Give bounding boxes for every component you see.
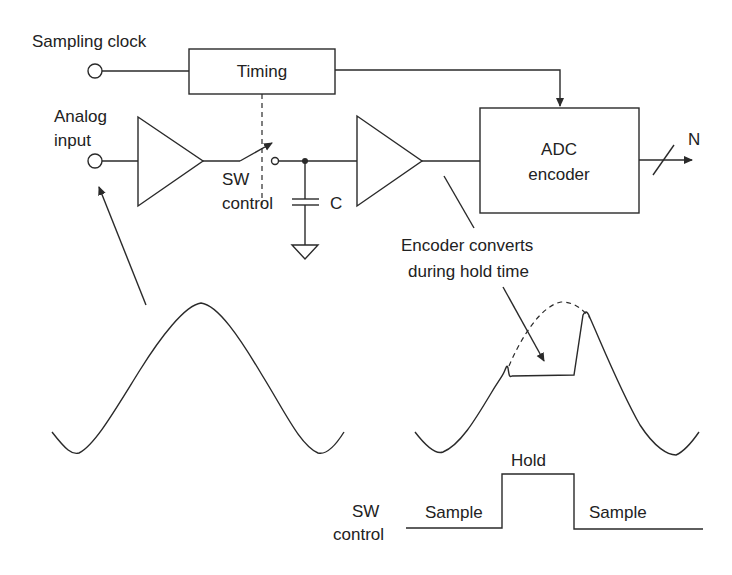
timing-label: Timing xyxy=(237,62,287,81)
sample-switch xyxy=(240,143,272,161)
analog-input-label-2: input xyxy=(54,131,91,150)
held-output-waveform xyxy=(415,312,699,455)
hold-label: Hold xyxy=(511,451,546,470)
sw-ctrl-label-2: control xyxy=(333,525,384,544)
sampling-clock-terminal xyxy=(88,64,102,78)
timing-to-adc-wire xyxy=(335,70,560,106)
sample-hold-diagram: Sampling clock Timing Analog input SW co… xyxy=(0,0,732,575)
encoder-label: encoder xyxy=(528,165,590,184)
hold-region-pointer xyxy=(503,287,544,361)
sample-right-label: Sample xyxy=(589,503,647,522)
sampling-clock-label: Sampling clock xyxy=(32,32,147,51)
encoder-note-pointer xyxy=(444,176,474,228)
output-bits-label: N xyxy=(688,130,700,149)
analog-input-terminal xyxy=(88,154,102,168)
analog-input-waveform xyxy=(52,303,344,453)
capacitor-label: C xyxy=(330,194,342,213)
adc-encoder-block xyxy=(480,108,639,213)
ideal-waveform-dashed xyxy=(509,302,590,366)
ground-icon xyxy=(292,245,318,259)
switch-contact xyxy=(272,158,279,165)
sample-left-label: Sample xyxy=(425,503,483,522)
adc-label: ADC xyxy=(541,140,577,159)
encoder-note-1: Encoder converts xyxy=(401,236,533,255)
output-buffer-amplifier xyxy=(357,116,422,206)
analog-input-label-1: Analog xyxy=(54,107,107,126)
control-label: control xyxy=(222,194,273,213)
input-buffer-amplifier xyxy=(138,117,203,206)
sw-ctrl-label-1: SW xyxy=(352,502,379,521)
encoder-note-2: during hold time xyxy=(408,262,529,281)
sw-label: SW xyxy=(222,170,249,189)
